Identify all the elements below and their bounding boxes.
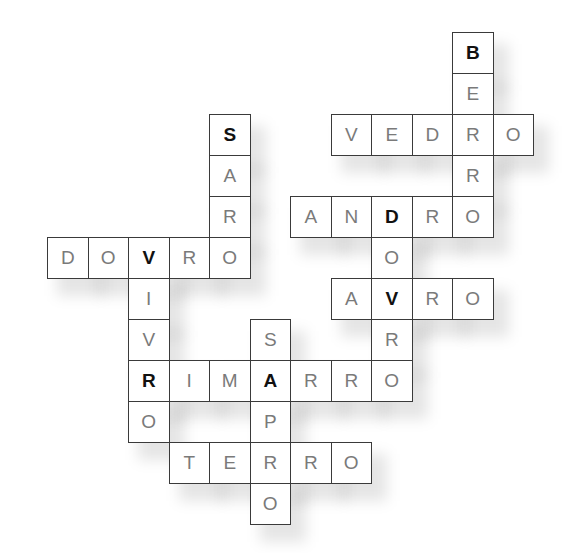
crossword-cell: R: [169, 237, 211, 279]
crossword-key-cell: S: [209, 114, 251, 156]
crossword-cell: P: [250, 401, 292, 443]
crossword-cell: O: [88, 237, 130, 279]
crossword-cell: R: [331, 360, 373, 402]
crossword-cell: O: [128, 401, 170, 443]
crossword-cell: D: [412, 114, 454, 156]
crossword-key-cell: B: [452, 32, 494, 74]
crossword-cell: O: [371, 360, 413, 402]
crossword-cell: A: [209, 155, 251, 197]
crossword-cell: O: [493, 114, 535, 156]
crossword-cell: D: [47, 237, 89, 279]
crossword-cell: R: [452, 114, 494, 156]
crossword-cell: O: [452, 196, 494, 238]
crossword-cell: O: [209, 237, 251, 279]
crossword-cell: O: [331, 442, 373, 484]
crossword-key-cell: A: [250, 360, 292, 402]
crossword-key-cell: V: [128, 237, 170, 279]
crossword-cell: E: [209, 442, 251, 484]
crossword-cell: O: [452, 278, 494, 320]
crossword-board: BERROVEDOSAROANDRDOVROVROAROIVROIMARRSPR…: [0, 0, 580, 553]
crossword-cell: R: [412, 278, 454, 320]
crossword-cell: O: [371, 237, 413, 279]
crossword-key-cell: V: [371, 278, 413, 320]
crossword-cell: I: [128, 278, 170, 320]
crossword-cell: A: [331, 278, 373, 320]
crossword-cell: T: [169, 442, 211, 484]
crossword-cell: R: [290, 360, 332, 402]
crossword-cell: S: [250, 319, 292, 361]
crossword-cell: R: [290, 442, 332, 484]
crossword-key-cell: D: [371, 196, 413, 238]
crossword-cell: R: [209, 196, 251, 238]
crossword-cell: V: [331, 114, 373, 156]
crossword-cell: M: [209, 360, 251, 402]
crossword-cell: R: [371, 319, 413, 361]
crossword-cell: I: [169, 360, 211, 402]
crossword-cell: A: [290, 196, 332, 238]
crossword-cell: O: [250, 483, 292, 525]
crossword-cell: V: [128, 319, 170, 361]
crossword-cell: E: [371, 114, 413, 156]
crossword-cell: R: [452, 155, 494, 197]
crossword-cell: R: [412, 196, 454, 238]
crossword-cell: N: [331, 196, 373, 238]
crossword-key-cell: R: [128, 360, 170, 402]
crossword-cell: E: [452, 73, 494, 115]
crossword-cell: R: [250, 442, 292, 484]
